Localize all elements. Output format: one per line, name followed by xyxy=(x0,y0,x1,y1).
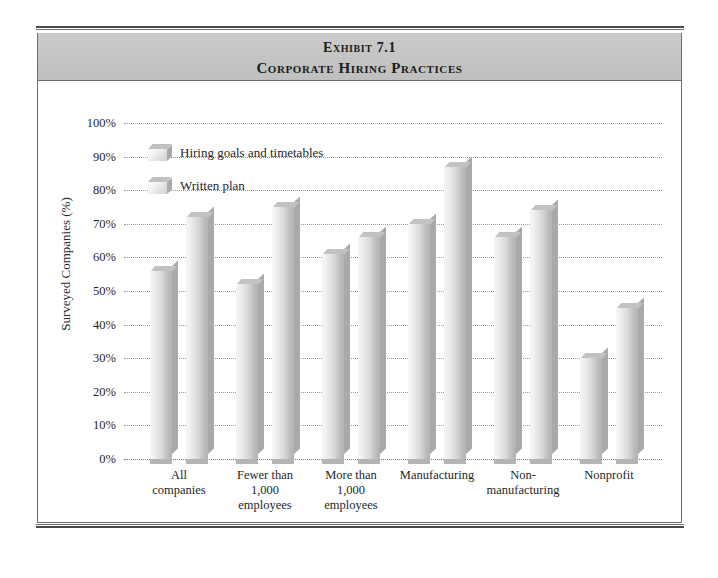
legend-swatch-front xyxy=(148,182,167,194)
bar-base xyxy=(616,459,638,464)
x-axis-category-label-line: manufacturing xyxy=(471,483,575,498)
bar-base xyxy=(272,459,294,464)
bar-side-face xyxy=(344,244,350,454)
bar-side-face xyxy=(294,197,300,454)
bar-base xyxy=(322,459,344,464)
bar-front-face xyxy=(616,308,638,459)
rule-thin-line xyxy=(36,524,684,525)
bar xyxy=(408,224,430,459)
bar xyxy=(236,284,258,459)
y-axis-tick-label: 40% xyxy=(70,317,116,332)
bar-base xyxy=(530,459,552,464)
bar xyxy=(272,207,294,459)
y-axis-tick-label: 10% xyxy=(70,418,116,433)
y-axis-tick-label: 50% xyxy=(70,284,116,299)
legend-swatch-icon xyxy=(148,144,172,161)
bar-front-face xyxy=(444,167,466,459)
bar-side-face xyxy=(602,348,608,454)
bar-front-face xyxy=(186,217,208,459)
bar-front-face xyxy=(322,254,344,459)
bar-front-face xyxy=(358,237,380,459)
bar-base xyxy=(236,459,258,464)
bar xyxy=(616,308,638,459)
bar-base xyxy=(358,459,380,464)
bar-side-face xyxy=(466,156,472,454)
plot-area: 0%10%20%30%40%50%60%70%80%90%100%Allcomp… xyxy=(38,81,682,523)
bar-base xyxy=(186,459,208,464)
top-double-rule xyxy=(36,26,684,30)
bar xyxy=(580,358,602,459)
rule-thick-line xyxy=(36,26,684,28)
legend-swatch-front xyxy=(148,149,167,161)
bar-front-face xyxy=(580,358,602,459)
gridline xyxy=(124,123,662,124)
y-axis-tick-label: 70% xyxy=(70,216,116,231)
bar-front-face xyxy=(408,224,430,459)
bar xyxy=(186,217,208,459)
bar-base xyxy=(580,459,602,464)
bar-front-face xyxy=(236,284,258,459)
legend-label: Hiring goals and timetables xyxy=(180,145,323,161)
bar-base xyxy=(494,459,516,464)
legend-label: Written plan xyxy=(180,178,245,194)
bar-side-face xyxy=(516,227,522,454)
bottom-double-rule xyxy=(36,524,684,528)
chart-frame: Surveyed Companies (%) 0%10%20%30%40%50%… xyxy=(37,81,682,523)
bar-front-face xyxy=(272,207,294,459)
bar-base xyxy=(408,459,430,464)
bar-front-face xyxy=(530,210,552,459)
exhibit-number: Exhibit 7.1 xyxy=(38,33,681,55)
exhibit-title-band: Exhibit 7.1 Corporate Hiring Practices xyxy=(37,33,682,81)
bar xyxy=(494,237,516,459)
rule-thin-line xyxy=(36,29,684,30)
bar xyxy=(530,210,552,459)
bar-base xyxy=(444,459,466,464)
bar-base xyxy=(150,459,172,464)
x-axis-category-label-line: 1,000 xyxy=(299,483,403,498)
bar-side-face xyxy=(638,297,644,454)
bar xyxy=(444,167,466,459)
x-axis-category-label: Nonprofit xyxy=(557,468,661,483)
y-axis-tick-label: 30% xyxy=(70,351,116,366)
bar-side-face xyxy=(552,200,558,454)
y-axis-tick-label: 80% xyxy=(70,183,116,198)
bar-side-face xyxy=(430,213,436,454)
x-axis-category-label-line: employees xyxy=(299,498,403,513)
y-axis-tick-label: 60% xyxy=(70,250,116,265)
bar xyxy=(358,237,380,459)
y-axis-tick-label: 100% xyxy=(70,116,116,131)
bar-front-face xyxy=(150,271,172,459)
exhibit-title: Corporate Hiring Practices xyxy=(38,55,681,76)
legend-swatch-icon xyxy=(148,177,172,194)
rule-thick-line xyxy=(36,526,684,528)
exhibit-figure: Exhibit 7.1 Corporate Hiring Practices S… xyxy=(36,26,684,528)
bar-side-face xyxy=(380,227,386,454)
y-axis-tick-label: 90% xyxy=(70,149,116,164)
bar xyxy=(150,271,172,459)
bar-side-face xyxy=(208,207,214,454)
bar-side-face xyxy=(172,260,178,454)
y-axis-tick-label: 0% xyxy=(70,452,116,467)
bar-side-face xyxy=(258,274,264,454)
bar-front-face xyxy=(494,237,516,459)
y-axis-tick-label: 20% xyxy=(70,384,116,399)
bar xyxy=(322,254,344,459)
x-axis-category-label-line: Nonprofit xyxy=(557,468,661,483)
